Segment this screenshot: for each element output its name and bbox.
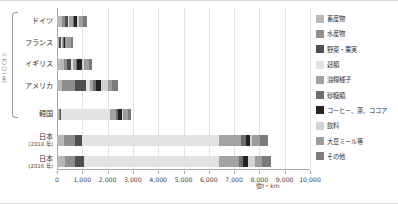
y-axis-label: 日本(2010 年) bbox=[5, 133, 53, 147]
x-axis-tick-label: 1,000 bbox=[73, 176, 91, 183]
bar-segment bbox=[75, 135, 82, 146]
legend-swatch bbox=[316, 15, 324, 23]
bar-segment bbox=[219, 135, 241, 146]
bar-stack bbox=[57, 109, 131, 120]
legend-item[interactable]: 油糧種子 bbox=[316, 72, 396, 87]
bar-stack bbox=[57, 135, 268, 146]
legend-label: 穀類 bbox=[327, 61, 339, 68]
bar-segment bbox=[112, 80, 117, 91]
bar-segment bbox=[128, 109, 131, 120]
x-axis-tick bbox=[209, 171, 210, 174]
legend-swatch bbox=[316, 45, 324, 53]
y-axis-label: 韓国 bbox=[5, 110, 53, 118]
y-axis-label: イギリス bbox=[5, 60, 53, 68]
legend-swatch bbox=[316, 30, 324, 38]
bar-segment bbox=[61, 109, 110, 120]
legend-label: 飲料 bbox=[327, 122, 339, 129]
grid-line bbox=[285, 8, 286, 169]
x-axis-tick-label: 5,000 bbox=[175, 176, 193, 183]
top-divider bbox=[0, 0, 398, 1]
legend-item[interactable]: 野菜・果実 bbox=[316, 42, 396, 57]
x-axis-tick-label: 10,000 bbox=[299, 176, 321, 183]
x-axis-tick bbox=[234, 171, 235, 174]
legend-swatch bbox=[316, 91, 324, 99]
bottom-divider bbox=[0, 203, 398, 204]
legend-swatch bbox=[316, 76, 324, 84]
bar-segment bbox=[75, 156, 83, 167]
legend-item[interactable]: 砂糖類 bbox=[316, 87, 396, 102]
bar-stack bbox=[57, 80, 118, 91]
x-axis-tick bbox=[133, 171, 134, 174]
legend-item[interactable]: 穀類 bbox=[316, 57, 396, 72]
x-axis-tick-label: 7,000 bbox=[225, 176, 243, 183]
legend-label: 畜産物 bbox=[327, 15, 345, 22]
x-axis-tick-label: 4,000 bbox=[149, 176, 167, 183]
chart-frame: （二〇〇一年） ドイツフランスイギリスアメリカ韓国日本(2010 年)日本(20… bbox=[0, 0, 398, 204]
legend-label: 野菜・果実 bbox=[327, 46, 357, 53]
bar-segment bbox=[75, 80, 86, 91]
x-axis-tick bbox=[184, 171, 185, 174]
legend-swatch bbox=[316, 137, 324, 145]
bar-segment bbox=[260, 135, 269, 146]
legend-item[interactable]: 飲料 bbox=[316, 118, 396, 133]
bar-segment bbox=[57, 156, 65, 167]
x-axis-tick bbox=[57, 171, 58, 174]
legend-label: 砂糖類 bbox=[327, 92, 345, 99]
x-axis-tick bbox=[310, 171, 311, 174]
y-axis-labels: ドイツフランスイギリスアメリカ韓国日本(2010 年)日本(2016 年) bbox=[0, 8, 53, 169]
legend-label: その他 bbox=[327, 153, 345, 160]
y-axis-label: アメリカ bbox=[5, 82, 53, 90]
legend-item[interactable]: その他 bbox=[316, 149, 396, 164]
bar-stack bbox=[57, 16, 87, 27]
axis-unit-label: 億t・km bbox=[256, 181, 280, 190]
x-axis-tick bbox=[285, 171, 286, 174]
bar-segment bbox=[65, 156, 76, 167]
bar-segment bbox=[252, 135, 259, 146]
chart-legend: 畜産物水産物野菜・果実穀類油糧種子砂糖類コーヒー、茶、ココア飲料大豆ミール等その… bbox=[316, 11, 396, 164]
bar-segment bbox=[89, 59, 92, 70]
bar-segment bbox=[57, 59, 64, 70]
x-axis-tick-label: 6,000 bbox=[200, 176, 218, 183]
bar-segment bbox=[84, 156, 219, 167]
grid-line bbox=[310, 8, 311, 169]
bar-segment bbox=[62, 80, 75, 91]
bar-stack bbox=[57, 156, 271, 167]
bar-segment bbox=[82, 135, 219, 146]
legend-swatch bbox=[316, 61, 324, 69]
legend-swatch bbox=[316, 152, 324, 160]
legend-label: 水産物 bbox=[327, 30, 345, 37]
x-axis-tick bbox=[259, 171, 260, 174]
legend-item[interactable]: コーヒー、茶、ココア bbox=[316, 103, 396, 118]
bar-segment bbox=[64, 135, 76, 146]
x-axis-line bbox=[57, 169, 310, 170]
x-axis-tick-label: 2,000 bbox=[99, 176, 117, 183]
legend-item[interactable]: 大豆ミール等 bbox=[316, 133, 396, 148]
bar-segment bbox=[262, 156, 271, 167]
legend-item[interactable]: 水産物 bbox=[316, 26, 396, 41]
x-axis-tick-label: 0 bbox=[55, 176, 59, 183]
bar-stack bbox=[57, 37, 73, 48]
bar-segment bbox=[83, 16, 87, 27]
bar-stack bbox=[57, 59, 92, 70]
x-axis-tick bbox=[82, 171, 83, 174]
bar-segment bbox=[219, 156, 239, 167]
legend-label: 油糧種子 bbox=[327, 76, 351, 83]
bar-segment bbox=[255, 156, 262, 167]
x-axis-tick-label: 3,000 bbox=[124, 176, 142, 183]
legend-swatch bbox=[316, 106, 324, 114]
legend-item[interactable]: 畜産物 bbox=[316, 11, 396, 26]
plot-area: 01,0002,0003,0004,0005,0006,0007,0008,00… bbox=[57, 8, 310, 169]
y-axis-label-sub: (2010 年) bbox=[5, 141, 53, 147]
legend-label: コーヒー、茶、ココア bbox=[327, 107, 387, 114]
y-axis-label: 日本(2016 年) bbox=[5, 155, 53, 169]
legend-swatch bbox=[316, 122, 324, 130]
y-axis-label: ドイツ bbox=[5, 17, 53, 25]
y-axis-label: フランス bbox=[5, 39, 53, 47]
y-axis-label-sub: (2016 年) bbox=[5, 163, 53, 169]
legend-label: 大豆ミール等 bbox=[327, 138, 363, 145]
bar-segment bbox=[71, 37, 73, 48]
bar-segment bbox=[248, 156, 255, 167]
x-axis-tick bbox=[158, 171, 159, 174]
x-axis-tick bbox=[108, 171, 109, 174]
